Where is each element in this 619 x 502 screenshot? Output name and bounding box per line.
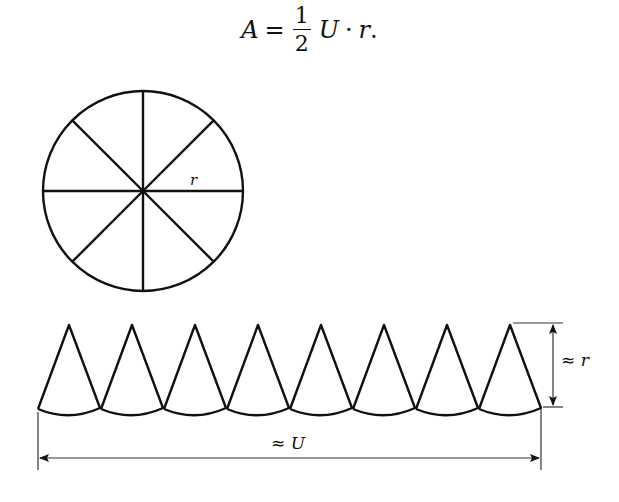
strip-sector xyxy=(164,325,226,415)
strip-sector xyxy=(353,325,415,415)
unrolled-sectors xyxy=(38,325,541,415)
sector-radius-line xyxy=(72,120,143,191)
sector-radius-line xyxy=(143,120,214,191)
height-label: ≈ r xyxy=(561,350,590,370)
circle-area-diagram: r ≈ r ≈ U xyxy=(0,0,619,502)
strip-sector xyxy=(416,325,478,415)
strip-sector xyxy=(290,325,352,415)
sector-radius-line xyxy=(143,191,214,262)
sector-radius-line xyxy=(72,191,143,262)
strip-sector xyxy=(479,325,541,415)
strip-sector xyxy=(38,325,100,415)
radius-label: r xyxy=(190,171,198,189)
strip-sector xyxy=(227,325,289,415)
height-dimension xyxy=(513,323,563,407)
strip-sector xyxy=(101,325,163,415)
width-label: ≈ U xyxy=(271,433,306,453)
divided-circle xyxy=(43,91,243,291)
